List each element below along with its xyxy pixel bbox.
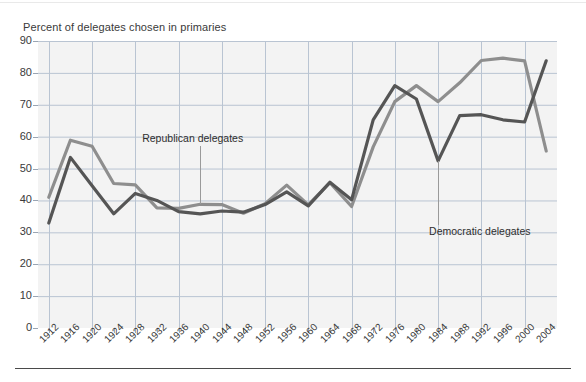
y-tick-label: 80 <box>8 66 32 78</box>
y-tick-label: 50 <box>8 162 32 174</box>
y-tick-label: 70 <box>8 98 32 110</box>
y-tick-mark <box>33 232 38 233</box>
annotation-democratic-leader <box>438 161 439 225</box>
annotation-democratic: Democratic delegates <box>429 225 531 237</box>
chart-title: Percent of delegates chosen in primaries <box>23 21 226 33</box>
y-tick-label: 60 <box>8 130 32 142</box>
y-tick-mark <box>33 73 38 74</box>
y-tick-mark <box>33 105 38 106</box>
y-tick-mark <box>33 296 38 297</box>
line-chart-svg <box>38 41 557 328</box>
y-tick-mark <box>33 169 38 170</box>
y-tick-mark <box>33 137 38 138</box>
y-tick-mark <box>33 264 38 265</box>
y-tick-label: 40 <box>8 193 32 205</box>
chart-page: Percent of delegates chosen in primaries… <box>0 0 586 382</box>
top-divider <box>0 2 586 3</box>
y-tick-label: 0 <box>8 321 32 333</box>
plot-area <box>38 41 557 328</box>
y-tick-label: 20 <box>8 257 32 269</box>
y-tick-label: 90 <box>8 34 32 46</box>
y-tick-mark <box>33 200 38 201</box>
y-tick-mark <box>33 41 38 42</box>
y-tick-label: 30 <box>8 225 32 237</box>
annotation-republican-leader <box>200 146 201 204</box>
annotation-republican: Republican delegates <box>142 132 243 144</box>
y-tick-label: 10 <box>8 289 32 301</box>
bottom-rule <box>15 368 571 369</box>
y-tick-mark <box>33 328 38 329</box>
